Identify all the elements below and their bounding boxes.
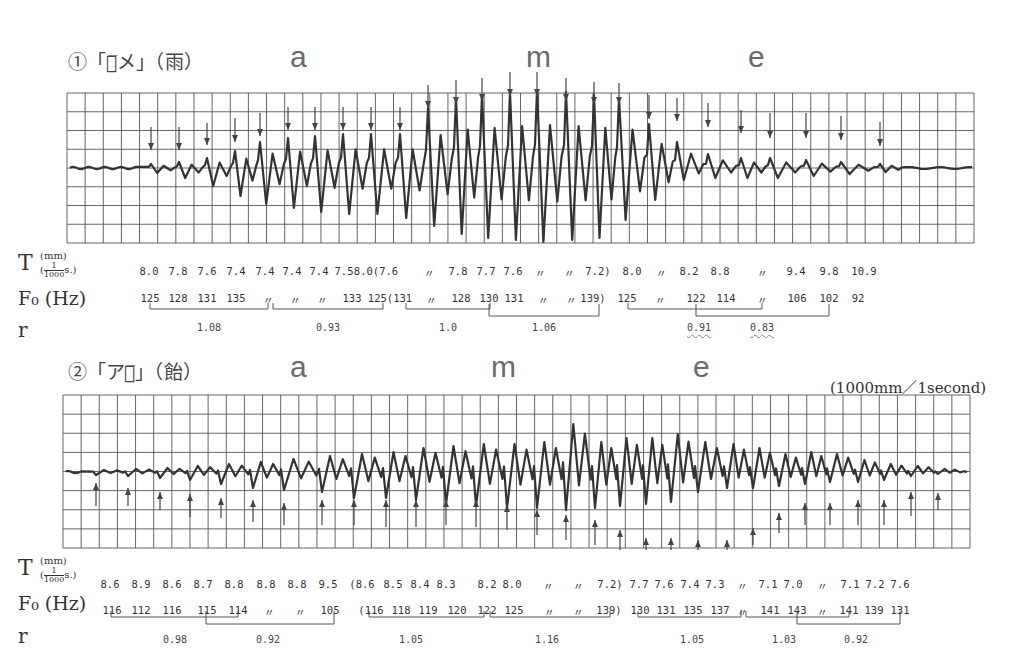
f0-value: 143	[788, 604, 807, 616]
period-value: 8.3	[437, 578, 456, 590]
period-value: 7.1	[841, 578, 860, 590]
period-value: 8.0(7.6	[354, 265, 398, 277]
arrow-down-icon	[838, 133, 844, 140]
period-value: 〃	[424, 265, 434, 280]
ratio-value: 0.93	[316, 322, 340, 333]
phoneme-label-a: a	[290, 350, 307, 384]
arrow-down-icon	[285, 123, 291, 130]
row-label-T-fraction: (11000s.)	[40, 262, 76, 279]
arrow-down-icon	[204, 138, 210, 145]
arrow-up-icon	[668, 538, 674, 545]
f0-value: 130	[631, 604, 650, 616]
period-value: 8.8	[711, 265, 730, 277]
period-value: 8.2	[478, 578, 497, 590]
phoneme-label-m: m	[491, 350, 516, 384]
arrow-up-icon	[351, 500, 357, 507]
f0-value: 131	[505, 292, 524, 304]
arrow-up-icon	[908, 492, 914, 499]
row-label-T: T	[18, 555, 33, 580]
arrow-down-icon	[340, 123, 346, 130]
arrow-up-icon	[504, 505, 510, 512]
period-value: 7.6	[504, 265, 523, 277]
ratio-value: 1.03	[772, 634, 796, 645]
period-value: 7.6	[655, 578, 674, 590]
f0-value: 〃	[290, 292, 300, 307]
period-value: 7.6	[891, 578, 910, 590]
f0-value: 131	[657, 604, 676, 616]
period-value: 7.4	[681, 578, 700, 590]
f0-value: 112	[132, 604, 151, 616]
ratio-value: 1.16	[535, 634, 559, 645]
arrow-up-icon	[855, 500, 861, 507]
arrow-up-icon	[563, 515, 569, 522]
arrow-down-icon	[368, 123, 374, 130]
ratio-value: 1.06	[532, 322, 556, 333]
row-label-r: r	[18, 624, 28, 648]
period-value: 8.4	[411, 578, 430, 590]
arrow-up-icon	[383, 500, 389, 507]
period-value: 7.2	[866, 578, 885, 590]
f0-value: 〃	[544, 604, 554, 619]
period-value: 8.0	[623, 265, 642, 277]
f0-value: 〃	[566, 292, 576, 307]
period-value: 〃	[737, 578, 747, 593]
ratio-value: 0.91	[687, 322, 711, 333]
f0-value: 〃	[263, 292, 273, 307]
period-value: 〃	[564, 265, 574, 280]
period-value: 7.7	[477, 265, 496, 277]
arrow-down-icon	[646, 112, 652, 119]
ratio-value: 0.83	[750, 322, 774, 333]
f0-value: 114	[717, 292, 736, 304]
period-value: 8.8	[225, 578, 244, 590]
f0-value: 114	[229, 604, 248, 616]
period-value: (8.6	[349, 578, 374, 590]
arrow-up-icon	[592, 520, 598, 527]
pitch-period-arrows	[93, 483, 941, 550]
arrow-up-icon	[218, 498, 224, 505]
ratio-value: 1.08	[197, 322, 221, 333]
arrow-down-icon	[453, 97, 459, 104]
period-value: 8.0	[140, 265, 159, 277]
f0-value: 118	[392, 604, 411, 616]
period-value: 7.3	[706, 578, 725, 590]
ratio-value: 1.05	[680, 634, 704, 645]
arrow-up-icon	[695, 540, 701, 547]
f0-value: 120	[448, 604, 467, 616]
arrow-down-icon	[616, 97, 622, 104]
f0-value: 105	[321, 604, 340, 616]
panel-title: ②「アメ̅」（飴）	[68, 357, 202, 384]
arrow-down-icon	[534, 89, 540, 96]
frac-den: 1000	[44, 271, 64, 279]
period-value: 7.7	[630, 578, 649, 590]
f0-value: 130	[480, 292, 499, 304]
arrow-up-icon	[413, 500, 419, 507]
frac-den: 1000	[44, 576, 64, 584]
period-value: 9.5	[319, 578, 338, 590]
arrow-up-icon	[935, 493, 941, 500]
period-value: 7.8	[169, 265, 188, 277]
f0-value: 135	[684, 604, 703, 616]
f0-value: 92	[852, 292, 865, 304]
arrow-down-icon	[312, 123, 318, 130]
arrow-down-icon	[257, 129, 263, 136]
ratio-value: 1.0	[439, 322, 457, 333]
arrow-down-icon	[397, 123, 403, 130]
period-value: 9.8	[820, 265, 839, 277]
row-label-T: T	[18, 250, 33, 275]
period-value: 8.8	[288, 578, 307, 590]
arrow-down-icon	[507, 89, 513, 96]
period-value: 〃	[535, 265, 545, 280]
f0-value: 〃	[538, 292, 548, 307]
f0-value: 119	[419, 604, 438, 616]
ratio-value: 0.92	[256, 634, 280, 645]
f0-value: 131	[198, 292, 217, 304]
period-value: 8.6	[101, 578, 120, 590]
arrow-down-icon	[767, 131, 773, 138]
f0-value: 131	[891, 604, 910, 616]
period-value: 7.0	[784, 578, 803, 590]
f0-value: 125	[618, 292, 637, 304]
f0-value: 128	[452, 292, 471, 304]
period-value: 7.1	[759, 578, 778, 590]
f0-value: 〃	[655, 292, 665, 307]
f0-value: 122	[478, 604, 497, 616]
